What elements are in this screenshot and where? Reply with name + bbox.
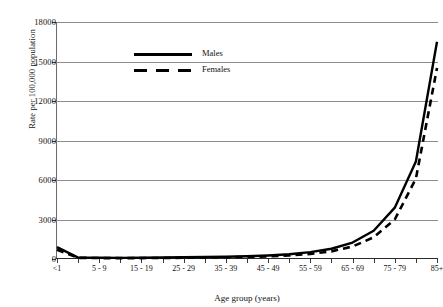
y-tick-label: 15000 — [10, 58, 56, 67]
x-tick-label: 45 - 49 — [257, 265, 280, 273]
x-tick-mark — [268, 259, 269, 263]
y-tick-label: 3000 — [10, 216, 56, 225]
y-tick-label: 18000 — [10, 18, 56, 27]
x-tick-label: 85+ — [431, 265, 443, 273]
x-tick-label: 55 - 59 — [299, 265, 322, 273]
x-tick-mark — [310, 259, 311, 263]
x-tick-mark — [205, 259, 206, 263]
legend-swatch-solid-icon — [134, 53, 192, 56]
x-tick-label: 65 - 69 — [341, 265, 364, 273]
x-tick-mark — [437, 259, 438, 263]
x-tick-mark — [226, 259, 227, 263]
y-tick-label: 12000 — [10, 97, 56, 106]
x-tick-mark — [120, 259, 121, 263]
x-tick-mark — [57, 259, 58, 263]
x-tick-mark — [374, 259, 375, 263]
legend-label-males: Males — [202, 48, 223, 58]
x-tick-mark — [353, 259, 354, 263]
x-tick-mark — [247, 259, 248, 263]
x-tick-mark — [395, 259, 396, 263]
x-tick-mark — [331, 259, 332, 263]
x-tick-label: 35 - 39 — [215, 265, 238, 273]
legend-label-females: Females — [202, 64, 230, 74]
x-axis-title: Age group (years) — [56, 293, 438, 303]
y-tick-label: 9000 — [10, 137, 56, 146]
x-tick-mark — [289, 259, 290, 263]
x-tick-label: 5 - 9 — [92, 265, 107, 273]
y-axis-title: Rate per 100,000 population — [27, 9, 37, 149]
x-tick-label: <1 — [53, 265, 62, 273]
plot-area: Males Females — [56, 22, 438, 259]
y-tick-label: 6000 — [10, 176, 56, 185]
x-tick-mark — [78, 259, 79, 263]
legend-swatch-dashed-icon — [134, 69, 192, 72]
series-line-males — [57, 42, 437, 258]
x-tick-mark — [163, 259, 164, 263]
series-line-females — [57, 68, 437, 258]
x-tick-mark — [99, 259, 100, 263]
x-tick-mark — [416, 259, 417, 263]
series-lines — [56, 22, 438, 259]
x-tick-label: 75 - 79 — [383, 265, 406, 273]
x-tick-mark — [184, 259, 185, 263]
x-tick-mark — [141, 259, 142, 263]
x-tick-label: 25 - 29 — [172, 265, 195, 273]
y-tick-label: 0 — [10, 255, 56, 264]
x-tick-label: 15 - 19 — [130, 265, 153, 273]
